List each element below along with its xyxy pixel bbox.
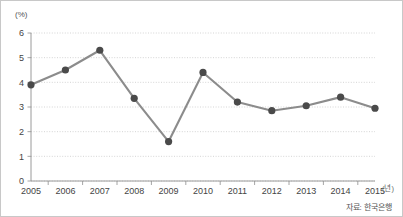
y-tick-label-1: 1 [19, 152, 24, 162]
data-point-2010 [199, 69, 206, 76]
x-tick-label-2011: 2011 [228, 186, 247, 196]
y-tick-label-3: 3 [19, 102, 24, 112]
data-point-2008 [131, 95, 138, 102]
x-tick-label-2005: 2005 [21, 186, 41, 196]
x-tick-label-2007: 2007 [90, 186, 110, 196]
data-series [31, 50, 375, 141]
y-tick-labels: 0123456 [19, 28, 24, 186]
data-point-2014 [337, 94, 344, 101]
y-tick-label-5: 5 [19, 53, 24, 63]
x-tick-label-2012: 2012 [262, 186, 282, 196]
x-tick-label-2013: 2013 [296, 186, 316, 196]
y-tick-label-6: 6 [19, 28, 24, 38]
data-point-2009 [165, 138, 172, 145]
series-line [31, 50, 375, 141]
line-chart: 0123456 20052006200720082009201020112012… [1, 1, 403, 217]
source-note: 자료: 한국은행 [346, 202, 392, 212]
x-tick-labels: 2005200620072008200920102011201220132014… [21, 186, 385, 196]
data-point-2012 [268, 107, 275, 114]
y-axis [28, 33, 32, 181]
x-tick-label-2014: 2014 [331, 186, 351, 196]
x-axis [31, 181, 375, 185]
chart-figure: 0123456 20052006200720082009201020112012… [0, 0, 403, 217]
x-tick-label-2006: 2006 [55, 186, 75, 196]
data-point-2015 [371, 105, 378, 112]
y-tick-label-2: 2 [19, 127, 24, 137]
x-tick-label-2008: 2008 [124, 186, 144, 196]
data-point-2006 [62, 66, 69, 73]
data-point-2007 [96, 47, 103, 54]
x-tick-label-2009: 2009 [159, 186, 179, 196]
x-unit-label: (년) [382, 183, 394, 193]
y-tick-label-4: 4 [19, 78, 24, 88]
y-tick-label-0: 0 [19, 176, 24, 186]
data-point-2005 [27, 81, 34, 88]
y-unit-label: (%) [15, 10, 28, 19]
gridlines [31, 33, 375, 181]
data-point-2013 [303, 102, 310, 109]
data-point-2011 [234, 98, 241, 105]
x-tick-label-2010: 2010 [193, 186, 213, 196]
